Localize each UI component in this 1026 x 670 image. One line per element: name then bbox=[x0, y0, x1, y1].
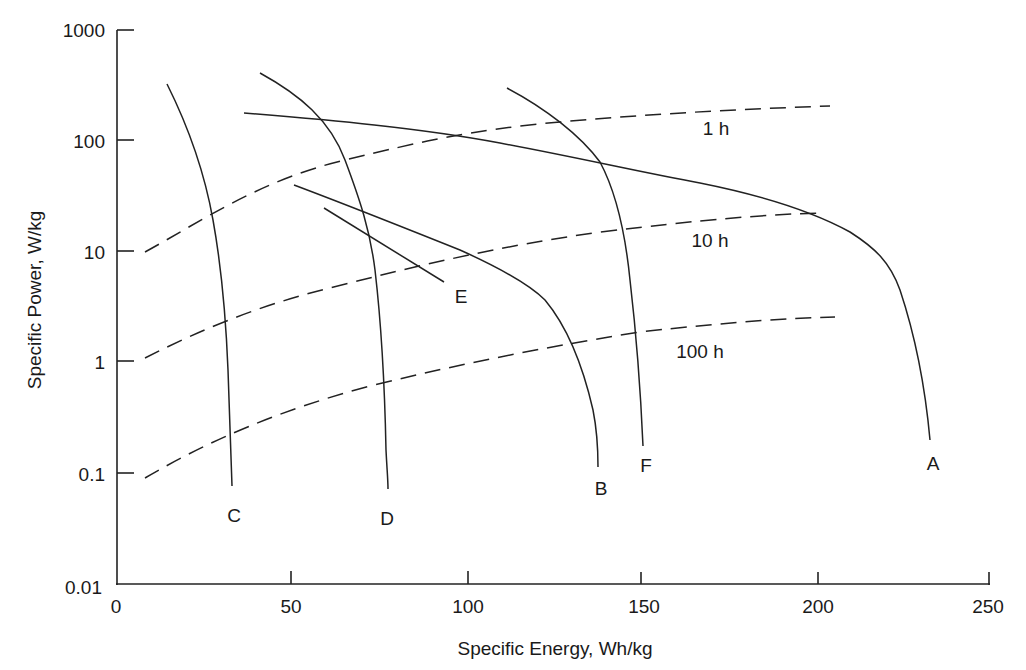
curve-C bbox=[167, 84, 232, 486]
curve-F bbox=[507, 88, 643, 446]
ragone-chart: 1000 100 10 1 0.1 0.01 0 50 100 150 200 … bbox=[0, 0, 1026, 670]
y-axis-title: Specific Power, W/kg bbox=[24, 211, 45, 389]
x-tick-label: 150 bbox=[628, 596, 660, 617]
label-100h: 100 h bbox=[676, 341, 724, 362]
y-tick-label: 0.01 bbox=[65, 577, 102, 598]
x-tick-label: 0 bbox=[111, 596, 122, 617]
curve-labels: A B C D E F bbox=[227, 286, 940, 529]
y-tick-label: 10 bbox=[84, 242, 105, 263]
label-C: C bbox=[227, 505, 241, 526]
y-tick-label: 100 bbox=[73, 131, 105, 152]
y-tick-labels: 1000 100 10 1 0.1 0.01 bbox=[63, 20, 105, 598]
y-tick-label: 1000 bbox=[63, 20, 105, 41]
curve-D bbox=[260, 73, 388, 489]
label-E: E bbox=[455, 286, 468, 307]
y-tick-label: 0.1 bbox=[79, 464, 105, 485]
label-A: A bbox=[927, 453, 940, 474]
y-tick-label: 1 bbox=[94, 352, 105, 373]
x-axis-title: Specific Energy, Wh/kg bbox=[457, 638, 652, 659]
line-100h bbox=[145, 317, 835, 478]
discharge-time-lines bbox=[145, 106, 835, 478]
label-F: F bbox=[640, 455, 652, 476]
label-10h: 10 h bbox=[692, 230, 729, 251]
curve-A bbox=[244, 113, 930, 440]
x-tick-label: 100 bbox=[452, 596, 484, 617]
x-tick-label: 200 bbox=[802, 596, 834, 617]
x-tick-labels: 0 50 100 150 200 250 bbox=[111, 596, 1004, 617]
battery-curves bbox=[167, 73, 930, 489]
label-D: D bbox=[380, 508, 394, 529]
x-tick-label: 50 bbox=[280, 596, 301, 617]
label-B: B bbox=[595, 478, 608, 499]
curve-B bbox=[294, 185, 598, 467]
x-tick-label: 250 bbox=[972, 596, 1004, 617]
label-1h: 1 h bbox=[703, 118, 729, 139]
